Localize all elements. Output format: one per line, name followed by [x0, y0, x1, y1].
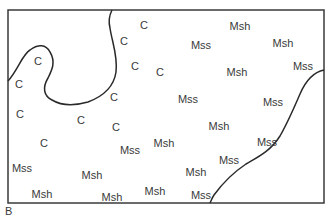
unit-label-msh: Msh: [82, 170, 103, 181]
unit-label-msh: Msh: [273, 38, 294, 49]
unit-label-c: C: [110, 92, 118, 103]
unit-label-msh: Msh: [145, 186, 166, 197]
unit-label-c: C: [40, 138, 48, 149]
unit-label-msh: Msh: [32, 189, 53, 200]
unit-label-c: C: [77, 115, 85, 126]
unit-label-c: C: [16, 109, 24, 120]
unit-label-c: C: [120, 36, 128, 47]
unit-label-c: C: [15, 79, 23, 90]
unit-label-c: C: [140, 20, 148, 31]
unit-label-mss: Mss: [191, 190, 211, 201]
unit-label-mss: Mss: [12, 163, 32, 174]
unit-label-mss: Mss: [120, 145, 140, 156]
unit-label-msh: Msh: [227, 67, 248, 78]
unit-label-msh: Msh: [230, 21, 251, 32]
unit-label-mss: Mss: [257, 137, 277, 148]
unit-label-msh: Msh: [209, 121, 230, 132]
unit-label-msh: Msh: [154, 138, 175, 149]
unit-label-c: C: [131, 61, 139, 72]
unit-label-mss: Mss: [178, 94, 198, 105]
unit-label-msh: Msh: [186, 167, 207, 178]
figure-label: B: [5, 205, 12, 217]
unit-label-c: C: [156, 67, 164, 78]
left-loop-boundary: [8, 10, 116, 105]
unit-label-msh: Msh: [102, 192, 123, 203]
unit-label-mss: Mss: [293, 61, 313, 72]
unit-label-c: C: [112, 122, 120, 133]
unit-label-mss: Mss: [219, 155, 239, 166]
unit-label-c: C: [34, 56, 42, 67]
unit-label-mss: Mss: [191, 40, 211, 51]
unit-label-mss: Mss: [263, 97, 283, 108]
